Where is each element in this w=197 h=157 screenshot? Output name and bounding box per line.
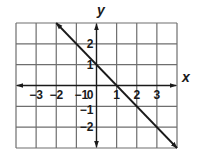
- x-axis-label: x: [181, 69, 191, 85]
- x-tick-label: −3: [29, 88, 43, 102]
- axes: [17, 24, 176, 147]
- x-tick-label: 2: [133, 88, 140, 102]
- x-tick-label: −2: [49, 88, 63, 102]
- y-axis-label: y: [96, 2, 106, 18]
- x-tick-label: 0: [87, 88, 94, 102]
- coordinate-plane: −3−2−1012321−1−2 x y: [0, 0, 197, 157]
- y-tick-label: 2: [87, 37, 94, 51]
- y-tick-label: 1: [87, 58, 94, 72]
- y-tick-label: −1: [80, 103, 94, 117]
- y-tick-label: −2: [80, 120, 94, 134]
- x-tick-label: 3: [154, 88, 161, 102]
- x-tick-label: 1: [113, 88, 120, 102]
